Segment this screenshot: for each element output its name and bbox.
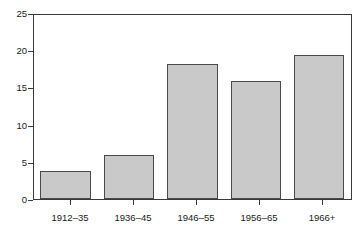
x-tick-mark-5 bbox=[322, 200, 323, 205]
x-tick-mark-3 bbox=[196, 200, 197, 205]
y-tick-label-5: 5 bbox=[0, 157, 27, 169]
bar-1956-65 bbox=[231, 81, 281, 199]
y-tick-label-15: 15 bbox=[0, 82, 27, 94]
bar-chart: 25 20 15 10 5 0 1912–35 1936–45 1946–55 … bbox=[0, 0, 364, 232]
plot-area bbox=[33, 14, 352, 200]
y-tick-label-10: 10 bbox=[0, 120, 27, 132]
y-tick-label-25: 25 bbox=[0, 8, 27, 20]
bar-1966-plus bbox=[294, 55, 344, 199]
x-tick-mark-1 bbox=[70, 200, 71, 205]
x-tick-mark-4 bbox=[259, 200, 260, 205]
x-label-1966-plus: 1966+ bbox=[282, 211, 362, 225]
y-tick-label-20: 20 bbox=[0, 45, 27, 57]
bar-1936-45 bbox=[104, 155, 154, 199]
y-tick-mark-0 bbox=[28, 200, 33, 201]
x-tick-mark-2 bbox=[133, 200, 134, 205]
bar-1912-35 bbox=[40, 171, 90, 199]
y-tick-label-0: 0 bbox=[0, 194, 27, 206]
bar-1946-55 bbox=[167, 64, 217, 199]
